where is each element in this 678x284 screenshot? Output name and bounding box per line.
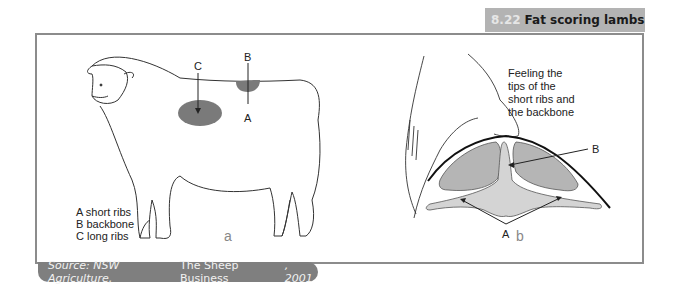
- marker-a-label: A: [244, 112, 252, 124]
- legend-long-ribs: C long ribs: [76, 230, 129, 242]
- panel-a-label: a: [224, 228, 232, 244]
- source-prefix: Source: NSW Agriculture,: [48, 259, 180, 284]
- panel-b-label: b: [516, 228, 524, 244]
- marker-b-label-b: B: [592, 143, 599, 155]
- long-ribs-patch: [178, 100, 222, 126]
- source-credit: Source: NSW Agriculture, The Sheep Busin…: [38, 262, 318, 282]
- caption-line-2: tips of the: [508, 80, 556, 92]
- marker-b-label: B: [244, 51, 251, 63]
- legend-backbone: B backbone: [76, 218, 134, 230]
- caption-line-1: Feeling the: [508, 67, 562, 79]
- caption-line-3: short ribs and: [508, 93, 575, 105]
- source-suffix: , 2001: [285, 259, 318, 284]
- source-work: The Sheep Business: [180, 259, 285, 284]
- marker-c-label: C: [194, 60, 202, 72]
- figure-illustration: C B A A short ribs B backbone C long rib…: [0, 0, 678, 284]
- legend-short-ribs: A short ribs: [76, 206, 132, 218]
- muscle-left: [439, 142, 501, 191]
- caption-line-4: the backbone: [508, 106, 574, 118]
- marker-a-label-b: A: [502, 228, 510, 240]
